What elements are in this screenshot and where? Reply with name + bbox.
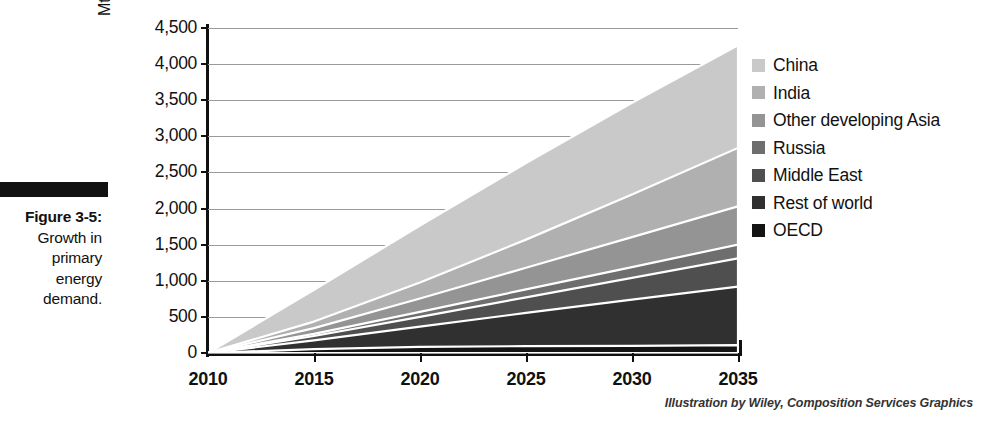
y-axis-label: 1,000 xyxy=(155,272,197,290)
x-axis-tick xyxy=(632,353,634,362)
legend-item-india[interactable]: India xyxy=(752,84,940,102)
caption-line-4: demand. xyxy=(0,289,102,310)
y-axis-label: 4,500 xyxy=(155,19,197,37)
legend-item-label: Middle East xyxy=(773,166,862,184)
y-axis-tick xyxy=(201,352,208,354)
legend-item-label: Other developing Asia xyxy=(773,111,940,129)
plot-area: 05001,0001,5002,0002,5003,0003,5004,0004… xyxy=(208,28,738,353)
y-axis-tick xyxy=(201,27,208,29)
y-axis-label: 3,000 xyxy=(155,128,197,146)
y-axis-title: Mtoe xyxy=(96,0,120,16)
y-axis-tick xyxy=(201,135,208,137)
legend-item-russia[interactable]: Russia xyxy=(752,139,940,157)
chart-legend: ChinaIndiaOther developing AsiaRussiaMid… xyxy=(752,56,940,239)
legend-item-middle-east[interactable]: Middle East xyxy=(752,166,940,184)
legend-item-oecd[interactable]: OECD xyxy=(752,221,940,239)
legend-item-label: Rest of world xyxy=(773,194,873,212)
figure-container: Figure 3-5: Growth in primary energy dem… xyxy=(0,0,981,427)
legend-item-label: OECD xyxy=(773,221,823,239)
y-axis-label: 0 xyxy=(188,344,197,362)
gridline xyxy=(208,353,738,354)
x-axis-label: 2025 xyxy=(506,369,545,390)
x-axis-tick xyxy=(738,353,740,362)
legend-item-label: India xyxy=(773,84,810,102)
y-axis-tick xyxy=(201,63,208,65)
legend-swatch-icon xyxy=(752,169,765,182)
y-axis-label: 2,500 xyxy=(155,164,197,182)
figure-number: Figure 3-5: xyxy=(25,208,102,225)
legend-item-label: Russia xyxy=(773,139,825,157)
x-axis-tick xyxy=(314,353,316,362)
legend-item-china[interactable]: China xyxy=(752,56,940,74)
legend-swatch-icon xyxy=(752,114,765,127)
y-axis-label: 2,000 xyxy=(155,200,197,218)
legend-swatch-icon xyxy=(752,141,765,154)
y-axis-label: 500 xyxy=(169,308,197,326)
x-axis-label: 2015 xyxy=(294,369,333,390)
x-axis-label: 2035 xyxy=(718,369,757,390)
y-axis-tick xyxy=(201,244,208,246)
y-axis-tick xyxy=(201,208,208,210)
legend-item-label: China xyxy=(773,56,818,74)
x-axis-tick xyxy=(420,353,422,362)
legend-swatch-icon xyxy=(752,224,765,237)
legend-swatch-icon xyxy=(752,59,765,72)
y-axis-label: 3,500 xyxy=(155,91,197,109)
y-axis-tick xyxy=(201,171,208,173)
caption-line-1: Growth in xyxy=(0,228,102,249)
y-axis-label: 1,500 xyxy=(155,236,197,254)
stacked-area-series xyxy=(208,28,738,353)
y-axis-tick xyxy=(201,99,208,101)
caption-line-3: energy xyxy=(0,269,102,290)
legend-swatch-icon xyxy=(752,86,765,99)
x-axis-label: 2010 xyxy=(188,369,227,390)
y-axis-tick xyxy=(201,316,208,318)
x-axis-tick xyxy=(526,353,528,362)
figure-caption-text: Figure 3-5: Growth in primary energy dem… xyxy=(0,207,108,310)
caption-line-2: primary xyxy=(0,248,102,269)
x-axis-label: 2020 xyxy=(400,369,439,390)
x-axis-label: 2030 xyxy=(612,369,651,390)
legend-swatch-icon xyxy=(752,196,765,209)
illustration-credit: Illustration by Wiley, Composition Servi… xyxy=(665,396,973,410)
y-axis-tick xyxy=(201,280,208,282)
figure-caption-block: Figure 3-5: Growth in primary energy dem… xyxy=(0,182,108,310)
legend-item-other-developing-asia[interactable]: Other developing Asia xyxy=(752,111,940,129)
legend-item-rest-of-world[interactable]: Rest of world xyxy=(752,194,940,212)
caption-rule-top xyxy=(0,182,108,197)
y-axis-label: 4,000 xyxy=(155,55,197,73)
